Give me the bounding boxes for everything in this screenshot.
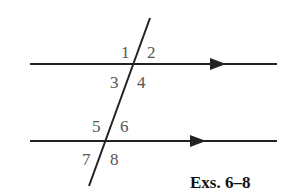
- angle-label-6: 6: [120, 117, 129, 136]
- bottom-arrow-icon: [190, 135, 206, 147]
- angle-label-8: 8: [110, 150, 119, 169]
- angle-label-1: 1: [121, 43, 130, 62]
- angle-label-2: 2: [147, 43, 156, 62]
- transversal-line: [89, 18, 150, 186]
- angle-label-5: 5: [92, 117, 101, 136]
- angle-label-7: 7: [82, 150, 91, 169]
- parallel-lines-diagram: 1 2 3 4 5 6 7 8 Exs. 6–8: [0, 0, 288, 192]
- angle-label-3: 3: [110, 73, 119, 92]
- top-arrow-icon: [210, 58, 226, 70]
- angle-label-4: 4: [137, 73, 146, 92]
- exercise-caption: Exs. 6–8: [190, 173, 250, 192]
- diagram-canvas: 1 2 3 4 5 6 7 8 Exs. 6–8: [0, 0, 288, 192]
